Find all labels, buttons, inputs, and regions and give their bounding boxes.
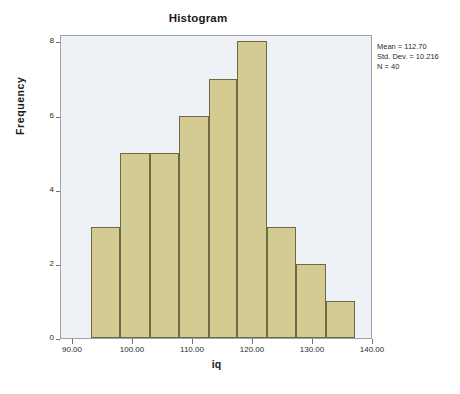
- stat-mean: Mean = 112.70: [377, 42, 439, 52]
- histogram-bar: [326, 301, 355, 338]
- stat-n: N = 40: [377, 62, 439, 72]
- x-tick-mark: [372, 339, 373, 344]
- x-tick-mark: [132, 339, 133, 344]
- plot-area: [60, 35, 372, 339]
- histogram-bar: [150, 153, 179, 338]
- histogram-bar: [91, 227, 120, 338]
- x-tick-label: 90.00: [62, 345, 82, 354]
- stat-std-dev: Std. Dev. = 10.216: [377, 52, 439, 62]
- y-tick-label: 6: [50, 111, 54, 120]
- x-tick-label: 110.00: [180, 345, 204, 354]
- bars-container: [61, 36, 371, 338]
- histogram-bar: [209, 79, 238, 339]
- y-tick-label: 4: [50, 185, 54, 194]
- x-tick-label: 100.00: [120, 345, 144, 354]
- x-tick-label: 130.00: [300, 345, 324, 354]
- y-tick-label: 2: [50, 259, 54, 268]
- x-tick-mark: [252, 339, 253, 344]
- y-axis-title: Frequency: [14, 77, 26, 136]
- histogram-chart: Histogram 02468 Frequency 90.00100.00110…: [0, 0, 460, 394]
- x-tick-mark: [312, 339, 313, 344]
- histogram-bar: [296, 264, 325, 338]
- x-tick-mark: [192, 339, 193, 344]
- x-tick-mark: [72, 339, 73, 344]
- chart-title: Histogram: [0, 12, 396, 24]
- x-axis-title: iq: [60, 358, 373, 370]
- histogram-bar: [237, 41, 266, 338]
- y-tick-label: 0: [50, 333, 54, 342]
- y-tick-label: 8: [50, 36, 54, 45]
- x-tick-label: 120.00: [240, 345, 264, 354]
- x-tick-label: 140.00: [360, 345, 384, 354]
- histogram-bar: [120, 153, 149, 338]
- histogram-bar: [179, 116, 208, 338]
- histogram-bar: [267, 227, 296, 338]
- y-axis: 02468: [0, 35, 60, 340]
- statistics-annotation: Mean = 112.70 Std. Dev. = 10.216 N = 40: [377, 42, 439, 72]
